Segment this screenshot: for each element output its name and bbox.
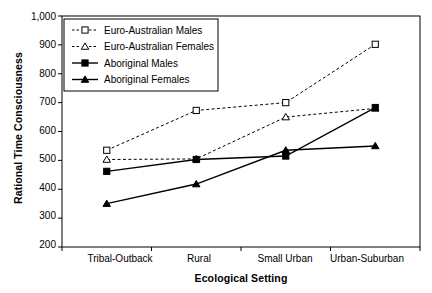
data-point-marker xyxy=(372,41,378,47)
x-tick-marks xyxy=(62,247,420,251)
data-point-marker xyxy=(104,168,110,174)
legend-label-1: Euro-Australian Females xyxy=(104,41,214,52)
data-point-marker xyxy=(104,147,110,153)
series-line xyxy=(107,108,376,172)
data-point-marker xyxy=(193,156,199,162)
data-point-marker xyxy=(283,100,289,106)
data-point-marker xyxy=(193,107,199,113)
legend-label-3: Aboriginal Females xyxy=(104,74,190,85)
data-point-marker xyxy=(372,104,378,110)
data-point-marker xyxy=(283,153,289,159)
series-line xyxy=(107,108,376,159)
data-point-marker xyxy=(82,60,88,66)
legend-label-0: Euro-Australian Males xyxy=(104,25,202,36)
series-3 xyxy=(103,142,379,206)
plot-area: Euro-Australian MalesEuro-Australian Fem… xyxy=(0,0,432,293)
series-1 xyxy=(103,105,379,162)
chart-figure: Rational Time Consciousness Ecological S… xyxy=(0,0,432,293)
chart-legend: Euro-Australian MalesEuro-Australian Fem… xyxy=(64,19,218,91)
data-point-marker xyxy=(82,27,88,33)
series-2 xyxy=(104,104,379,174)
legend-label-2: Aboriginal Males xyxy=(104,58,178,69)
series-line xyxy=(107,146,376,204)
y-tick-marks xyxy=(58,16,62,247)
